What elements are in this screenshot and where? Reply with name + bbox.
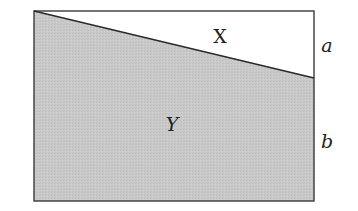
label-a: a [321,34,332,56]
diagram-canvas: X Y a b [0,0,358,211]
label-x: X [213,25,227,47]
label-b: b [321,130,333,152]
